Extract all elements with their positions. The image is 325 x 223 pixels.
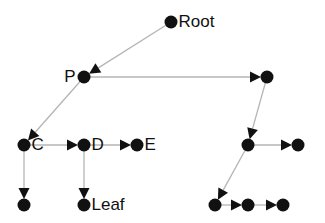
edge-p_right-to-r1 bbox=[253, 77, 267, 129]
node-label-e: E bbox=[145, 136, 156, 153]
arrowhead-icon bbox=[266, 200, 277, 211]
tree-diagram bbox=[0, 0, 325, 223]
arrowhead-icon bbox=[89, 63, 101, 74]
node-label-d: D bbox=[92, 136, 104, 153]
node-label-root: Root bbox=[179, 13, 215, 30]
arrowhead-icon bbox=[120, 140, 131, 151]
edges-layer bbox=[19, 22, 293, 211]
node-c bbox=[18, 139, 31, 152]
node-r1_right bbox=[292, 139, 305, 152]
arrowhead-icon bbox=[247, 127, 258, 139]
arrowhead-icon bbox=[67, 140, 78, 151]
arrowhead-icon bbox=[250, 72, 261, 83]
arrowhead-icon bbox=[231, 200, 242, 211]
node-c_child bbox=[18, 199, 31, 212]
node-e bbox=[131, 139, 144, 152]
edge-p-to-c bbox=[35, 77, 84, 132]
edge-root-to-p bbox=[98, 22, 171, 68]
node-root bbox=[165, 16, 178, 29]
node-label-leaf: Leaf bbox=[92, 196, 125, 213]
node-p bbox=[78, 71, 91, 84]
node-label-p: P bbox=[64, 68, 75, 85]
node-r2c bbox=[277, 199, 290, 212]
node-leaf bbox=[78, 199, 91, 212]
arrowhead-icon bbox=[19, 188, 30, 199]
arrowhead-icon bbox=[281, 140, 292, 151]
node-p_right bbox=[261, 71, 274, 84]
node-d bbox=[78, 139, 91, 152]
edge-r1-to-r2 bbox=[223, 145, 248, 190]
node-r1 bbox=[242, 139, 255, 152]
arrowhead-icon bbox=[79, 188, 90, 199]
node-r2 bbox=[209, 199, 222, 212]
node-r2b bbox=[242, 199, 255, 212]
nodes-layer bbox=[18, 16, 305, 212]
node-label-c: C bbox=[32, 136, 44, 153]
